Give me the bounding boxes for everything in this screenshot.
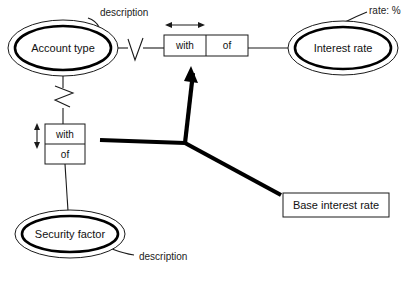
arrowhead-right-icon (198, 22, 205, 28)
pointer-branch-left (100, 140, 185, 143)
dim-vertical-arrow (34, 123, 40, 149)
arrowhead-up-icon (34, 123, 40, 130)
arrowhead-left-icon (165, 22, 172, 28)
rel-horizontal-cell-of: of (223, 40, 232, 51)
pointer-branch-up (185, 73, 193, 143)
rel-horizontal-cell-with: with (175, 40, 194, 51)
annotation-description-bottom: description (139, 251, 187, 262)
entity-interest-rate[interactable]: Interest rate (288, 21, 398, 75)
arrowhead-down-icon (34, 142, 40, 149)
leader-description-bottom (112, 249, 134, 255)
pointer-branch-lower-right (185, 143, 281, 195)
pointer-arrowhead-up-icon (184, 66, 198, 83)
thick-pointer (100, 66, 281, 195)
account-type-label: Account type (31, 42, 95, 54)
relationship-box-vertical[interactable]: with of (45, 124, 85, 164)
chevron-z-icon (55, 86, 73, 107)
diagram-surface: Account type Interest rate Security fact… (0, 0, 419, 281)
connector-vertbox-to-securityfactor (65, 164, 68, 211)
entity-security-factor[interactable]: Security factor (15, 210, 125, 258)
rel-vertical-cell-with: with (55, 129, 74, 140)
entity-account-type[interactable]: Account type (8, 20, 118, 76)
leader-rate-percent (345, 12, 367, 22)
interest-rate-label: Interest rate (314, 42, 373, 54)
annotation-description-top: description (100, 7, 148, 18)
dim-horizontal-arrow (165, 22, 205, 28)
chevron-v-icon (128, 38, 143, 60)
annotation-rate-percent: rate: % (369, 5, 401, 16)
base-interest-rate-label: Base interest rate (293, 199, 379, 211)
relationship-box-horizontal[interactable]: with of (164, 35, 248, 56)
security-factor-label: Security factor (35, 228, 106, 240)
rel-vertical-cell-of: of (61, 149, 70, 160)
box-base-interest-rate[interactable]: Base interest rate (283, 193, 389, 217)
er-diagram-canvas: Account type Interest rate Security fact… (0, 0, 419, 281)
